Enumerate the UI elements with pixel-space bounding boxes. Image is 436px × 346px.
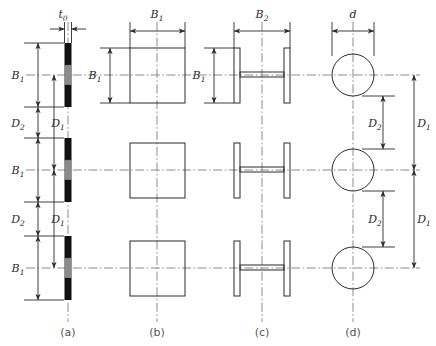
strip-1-upper-flange [65,43,72,65]
strip-3-web [65,258,72,278]
strip-2-web [65,160,72,180]
panel-c-caption: (c) [255,326,270,339]
panel-a-caption: (a) [60,326,75,339]
cross-section-diagram-svg: t0 B1 D2 B1 D2 [0,0,436,346]
dim-d-diameter-label: d [349,8,356,21]
strip-1-lower-flange [65,85,72,107]
strip-2-lower-flange [65,180,72,202]
panel-d-caption: (d) [345,326,361,339]
figure-container: t0 B1 D2 B1 D2 [0,0,436,346]
strip-3-lower-flange [65,278,72,300]
strip-1-web [65,65,72,85]
strip-3-upper-flange [65,236,72,258]
panel-b-caption: (b) [149,326,165,339]
strip-2-upper-flange [65,138,72,160]
strip-element-3 [65,236,72,300]
strip-element-1 [65,43,72,107]
strip-element-2 [65,138,72,202]
